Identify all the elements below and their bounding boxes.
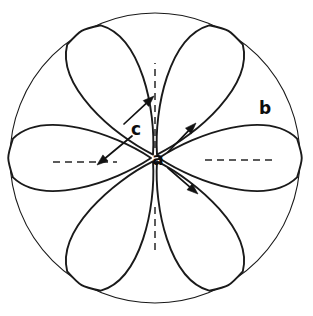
rosette-diagram: a b c (0, 0, 313, 316)
label-a: a (152, 149, 163, 169)
figure-container: a b c (0, 0, 313, 316)
label-c: c (131, 119, 141, 139)
label-b: b (259, 98, 271, 118)
